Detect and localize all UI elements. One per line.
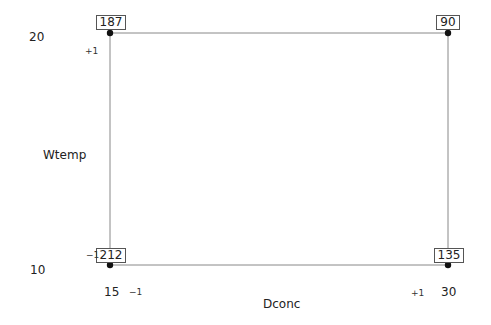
cube-plot-frame — [0, 0, 491, 325]
x-tick-high: 30 — [441, 285, 456, 299]
value-label-bottom-right: 135 — [434, 248, 464, 263]
y-tick-high: 20 — [29, 30, 44, 44]
y-coded-low: −1 — [86, 250, 99, 260]
value-label-bottom-left: 212 — [96, 248, 126, 263]
x-tick-low: 15 — [104, 285, 119, 299]
y-coded-high: +1 — [85, 46, 98, 56]
point-top-left — [107, 30, 113, 36]
point-top-right — [445, 30, 451, 36]
x-coded-low: −1 — [129, 287, 142, 297]
x-coded-high: +1 — [411, 288, 424, 298]
y-axis-title: Wtemp — [43, 148, 86, 162]
y-tick-low: 10 — [30, 263, 45, 277]
value-label-top-right: 90 — [436, 15, 460, 30]
x-axis-title: Dconc — [263, 297, 300, 311]
value-label-top-left: 187 — [96, 15, 126, 30]
